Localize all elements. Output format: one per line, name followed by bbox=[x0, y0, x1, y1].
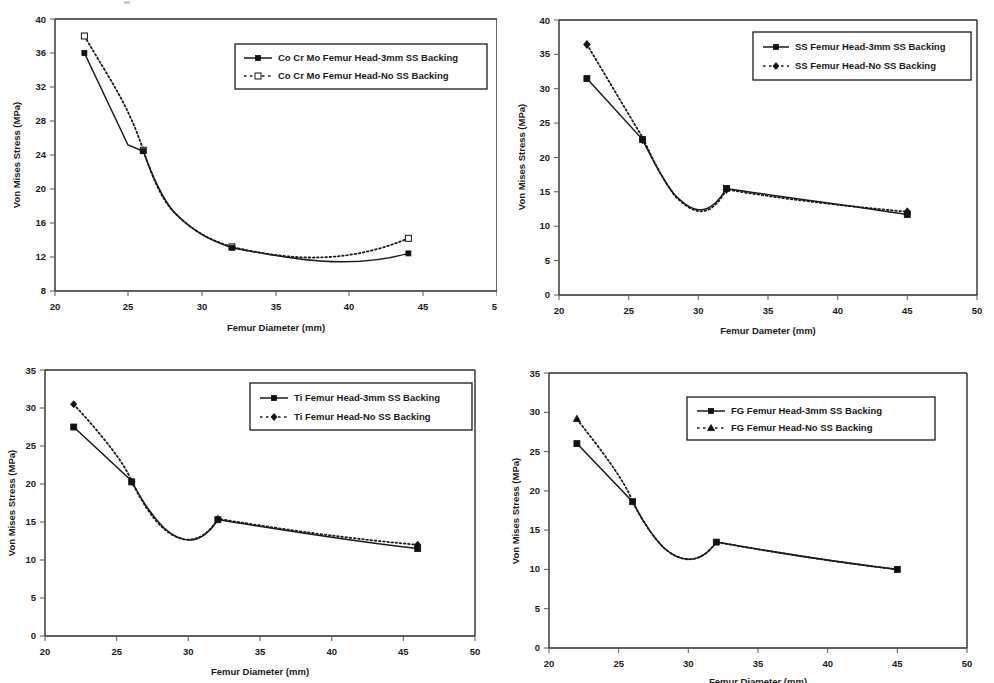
legend-marker-open-square bbox=[255, 73, 261, 79]
y-tick-label: 20 bbox=[35, 183, 46, 194]
y-tick-label: 16 bbox=[35, 217, 46, 228]
chart-svg-co-cr-mo: 8 12 16 20 24 28 32 36 40 20 bbox=[0, 0, 497, 341]
x-tick-label: 45 bbox=[892, 658, 903, 669]
x-tick-label: 50 bbox=[962, 658, 973, 669]
x-tick-label: 45 bbox=[398, 646, 409, 657]
legend-label: Co Cr Mo Femur Head-3mm SS Backing bbox=[278, 52, 458, 63]
legend-label: SS Femur Head-No SS Backing bbox=[795, 60, 936, 71]
legend-label: SS Femur Head-3mm SS Backing bbox=[795, 41, 946, 52]
y-tick-label: 40 bbox=[35, 14, 46, 25]
y-tick-label: 36 bbox=[35, 47, 46, 58]
y-tick-label: 15 bbox=[529, 524, 540, 535]
y-tick-label: 35 bbox=[25, 365, 36, 376]
x-tick-label: 40 bbox=[326, 646, 337, 657]
y-tick-label: 15 bbox=[539, 186, 550, 197]
x-tick-label: 30 bbox=[693, 305, 704, 316]
y-tick-label: 35 bbox=[539, 48, 550, 59]
chart-svg-ss: 0 5 10 15 20 25 30 35 40 20 bbox=[497, 0, 994, 341]
y-tick-label: 0 bbox=[31, 630, 36, 641]
x-tick-label: 45 bbox=[902, 305, 913, 316]
legend-box bbox=[250, 383, 472, 430]
y-tick-label: 28 bbox=[35, 115, 46, 126]
panel-background bbox=[497, 341, 994, 683]
y-axis-tick-labels-co-cr-mo: 8 12 16 20 24 28 32 36 40 bbox=[35, 14, 46, 296]
legend-box bbox=[687, 397, 935, 440]
y-tick-label: 30 bbox=[25, 402, 36, 413]
legend-box bbox=[235, 44, 487, 89]
y-tick-label: 20 bbox=[529, 485, 540, 496]
x-axis-title: Femur Diameter (mm) bbox=[709, 676, 807, 683]
chart-panel-co-cr-mo: 8 12 16 20 24 28 32 36 40 20 bbox=[0, 0, 497, 341]
x-axis-title: Femur Dameter (mm) bbox=[720, 325, 816, 336]
legend-fg[interactable]: FG Femur Head-3mm SS Backing FG Femur He… bbox=[687, 397, 935, 440]
x-axis-title: Femur Diameter (mm) bbox=[211, 666, 309, 677]
x-tick-label: 35 bbox=[271, 301, 282, 312]
y-axis-title: Von Mises Stress (MPa) bbox=[510, 458, 521, 564]
legend-label: Ti Femur Head-3mm SS Backing bbox=[294, 392, 440, 403]
chart-panel-ss: 0 5 10 15 20 25 30 35 40 20 bbox=[497, 0, 994, 341]
x-tick-label: 20 bbox=[50, 301, 61, 312]
chart-figure-grid: 8 12 16 20 24 28 32 36 40 20 bbox=[0, 0, 994, 683]
y-axis-title: Von Mises Stress (MPa) bbox=[516, 104, 527, 210]
y-tick-label: 12 bbox=[35, 251, 46, 262]
x-tick-label: 50 bbox=[470, 646, 481, 657]
x-tick-label: 25 bbox=[613, 658, 624, 669]
x-tick-label: 40 bbox=[832, 305, 843, 316]
y-tick-label: 15 bbox=[25, 516, 36, 527]
chart-svg-fg: 0 5 10 15 20 25 30 35 20 25 bbox=[497, 341, 994, 683]
x-tick-label: 35 bbox=[763, 305, 774, 316]
x-axis-title: Femur Diameter (mm) bbox=[227, 322, 325, 333]
y-tick-label: 5 bbox=[535, 603, 541, 614]
legend-marker-filled-square bbox=[774, 45, 779, 50]
x-tick-label: 20 bbox=[554, 305, 565, 316]
y-tick-label: 20 bbox=[25, 478, 36, 489]
y-tick-label: 0 bbox=[535, 642, 540, 653]
legend-box bbox=[753, 32, 971, 80]
x-tick-label: 20 bbox=[544, 658, 555, 669]
y-tick-label: 5 bbox=[31, 592, 37, 603]
legend-marker-filled-square bbox=[709, 409, 714, 414]
y-tick-label: 10 bbox=[539, 220, 550, 231]
y-tick-label: 25 bbox=[539, 117, 550, 128]
scan-artifact bbox=[124, 1, 130, 4]
y-axis-title: Von Mises Stress (MPa) bbox=[6, 450, 17, 556]
x-tick-label: 40 bbox=[822, 658, 833, 669]
legend-label: Co Cr Mo Femur Head-No SS Backing bbox=[278, 70, 449, 81]
x-tick-label: 25 bbox=[111, 646, 122, 657]
y-tick-label: 20 bbox=[539, 152, 550, 163]
legend-label: FG Femur Head-3mm SS Backing bbox=[731, 405, 882, 416]
legend-co-cr-mo[interactable]: Co Cr Mo Femur Head-3mm SS Backing Co Cr… bbox=[235, 44, 487, 89]
x-tick-label: 25 bbox=[123, 301, 134, 312]
y-tick-label: 25 bbox=[529, 446, 540, 457]
x-tick-label: 45 bbox=[418, 301, 429, 312]
x-tick-label: 30 bbox=[683, 658, 694, 669]
y-tick-label: 32 bbox=[35, 81, 46, 92]
y-tick-label: 10 bbox=[529, 563, 540, 574]
y-axis-title: Von Mises Stress (MPa) bbox=[11, 102, 22, 208]
legend-ti[interactable]: Ti Femur Head-3mm SS Backing Ti Femur He… bbox=[250, 383, 472, 430]
x-tick-label: 35 bbox=[255, 646, 266, 657]
y-tick-label: 25 bbox=[25, 440, 36, 451]
chart-svg-ti: 0 5 10 15 20 25 30 35 20 25 bbox=[0, 341, 497, 683]
x-tick-label: 30 bbox=[183, 646, 194, 657]
y-tick-label: 8 bbox=[41, 285, 46, 296]
x-tick-label: 30 bbox=[197, 301, 208, 312]
y-tick-label: 40 bbox=[539, 15, 550, 26]
legend-marker-filled-square bbox=[256, 56, 261, 61]
chart-panel-fg: 0 5 10 15 20 25 30 35 20 25 bbox=[497, 341, 994, 683]
legend-marker-filled-square bbox=[272, 396, 277, 401]
legend-label: FG Femur Head-No SS Backing bbox=[731, 422, 873, 433]
x-tick-label: 35 bbox=[753, 658, 764, 669]
y-tick-label: 5 bbox=[545, 255, 551, 266]
x-tick-label: 20 bbox=[40, 646, 51, 657]
legend-ss[interactable]: SS Femur Head-3mm SS Backing SS Femur He… bbox=[753, 32, 971, 80]
x-tick-label: 25 bbox=[623, 305, 634, 316]
x-tick-label: 50 bbox=[972, 305, 983, 316]
y-tick-label: 30 bbox=[529, 406, 540, 417]
y-tick-label: 0 bbox=[545, 289, 550, 300]
y-tick-label: 10 bbox=[25, 554, 36, 565]
y-tick-label: 35 bbox=[529, 368, 540, 379]
y-tick-label: 24 bbox=[35, 149, 46, 160]
chart-panel-ti: 0 5 10 15 20 25 30 35 20 25 bbox=[0, 341, 497, 683]
legend-label: Ti Femur Head-No SS Backing bbox=[294, 411, 431, 422]
